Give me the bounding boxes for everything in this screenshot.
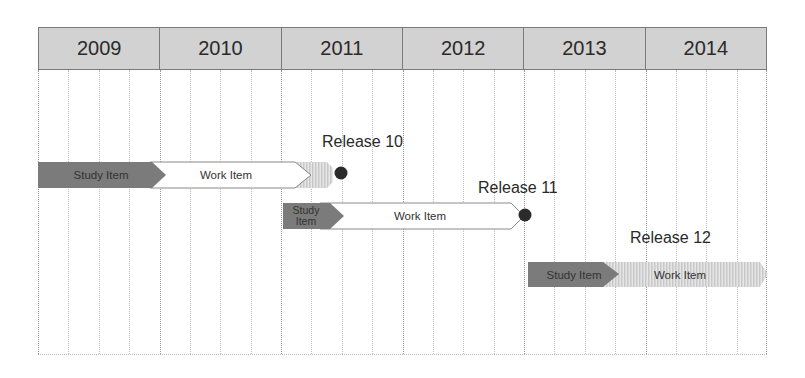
- release-12-work-label: Work Item: [630, 262, 730, 287]
- release-10-work-label: Work Item: [166, 162, 286, 188]
- release-11-milestone-dot: [519, 209, 532, 222]
- release-11-study-label: Study Item: [285, 203, 327, 229]
- gantt-bars: [0, 0, 805, 378]
- release-10-milestone-dot: [335, 167, 348, 180]
- release-11-study-label-text: Study Item: [289, 205, 323, 227]
- release-11-label: Release 11: [478, 179, 558, 197]
- release-10-study-label: Study Item: [46, 162, 156, 188]
- release-11-work-label: Work Item: [345, 203, 495, 229]
- release-12-study-label: Study Item: [534, 262, 614, 287]
- release-10-label: Release 10: [322, 133, 403, 151]
- release-12-label: Release 12: [630, 229, 711, 247]
